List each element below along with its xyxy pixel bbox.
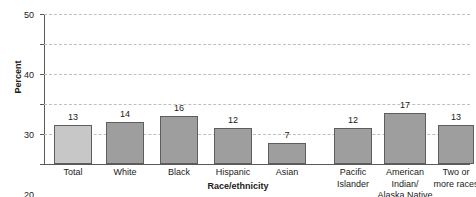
x-axis-category-label: Total bbox=[43, 167, 103, 179]
y-axis-tick-label: 20 bbox=[24, 190, 34, 197]
bar[interactable] bbox=[106, 122, 144, 164]
x-axis-line bbox=[44, 164, 470, 165]
bar-chart: Percent 01020304050 131416127121713 Tota… bbox=[0, 0, 476, 197]
bar-value-label: 12 bbox=[228, 115, 238, 125]
y-axis-tick: 0 bbox=[40, 164, 44, 165]
bar-group: 13 bbox=[438, 14, 474, 164]
bar-group: 12 bbox=[214, 14, 252, 164]
bar-value-label: 7 bbox=[284, 130, 289, 140]
bar-group: 12 bbox=[334, 14, 372, 164]
x-axis-category-label: Asian bbox=[257, 167, 317, 179]
bar[interactable] bbox=[160, 116, 198, 164]
y-axis-tick-label: 30 bbox=[24, 130, 34, 140]
bar-value-label: 16 bbox=[174, 103, 184, 113]
bar[interactable] bbox=[384, 113, 426, 164]
bar[interactable] bbox=[268, 143, 306, 164]
bar[interactable] bbox=[214, 128, 252, 164]
bar-value-label: 13 bbox=[451, 112, 461, 122]
bar-value-label: 12 bbox=[348, 115, 358, 125]
bar[interactable] bbox=[54, 125, 92, 164]
bar-value-label: 14 bbox=[120, 109, 130, 119]
y-axis-title: Percent bbox=[13, 42, 23, 112]
bar-group: 14 bbox=[106, 14, 144, 164]
bars-container: 131416127121713 bbox=[44, 14, 470, 164]
bar[interactable] bbox=[334, 128, 372, 164]
bar[interactable] bbox=[438, 125, 474, 164]
plot-area: 01020304050 131416127121713 bbox=[44, 14, 470, 164]
bar-group: 17 bbox=[384, 14, 426, 164]
bar-group: 13 bbox=[54, 14, 92, 164]
x-axis-title: Race/ethnicity bbox=[0, 181, 476, 191]
x-axis-category-label: Hispanic bbox=[203, 167, 263, 179]
y-axis-tick-label: 40 bbox=[24, 70, 34, 80]
bar-group: 7 bbox=[268, 14, 306, 164]
bar-group: 16 bbox=[160, 14, 198, 164]
bar-value-label: 17 bbox=[400, 100, 410, 110]
x-axis-category-label: White bbox=[95, 167, 155, 179]
x-axis-category-label: Black bbox=[149, 167, 209, 179]
bar-value-label: 13 bbox=[68, 112, 78, 122]
y-axis-tick-label: 50 bbox=[24, 10, 34, 20]
